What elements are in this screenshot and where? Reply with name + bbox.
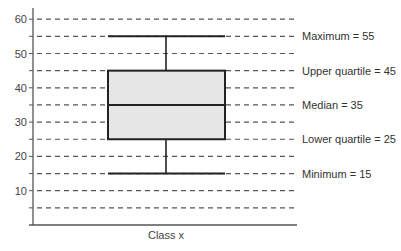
- annotation-label: Minimum = 15: [302, 168, 371, 180]
- y-tick-label: 40: [15, 82, 27, 94]
- y-tick-label: 20: [15, 150, 27, 162]
- box-plot: [108, 36, 225, 173]
- annotation-label: Median = 35: [302, 99, 363, 111]
- y-tick-label: 60: [15, 13, 27, 25]
- annotation-label: Lower quartile = 25: [302, 133, 396, 145]
- x-axis-label: Class x: [148, 229, 185, 241]
- y-tick-label: 50: [15, 48, 27, 60]
- annotations: Maximum = 55Upper quartile = 45Median = …: [302, 30, 396, 179]
- y-tick-label: 30: [15, 116, 27, 128]
- box-plot-chart: 102030405060 Maximum = 55Upper quartile …: [0, 0, 401, 251]
- annotation-label: Maximum = 55: [302, 30, 374, 42]
- annotation-label: Upper quartile = 45: [302, 65, 396, 77]
- y-tick-label: 10: [15, 185, 27, 197]
